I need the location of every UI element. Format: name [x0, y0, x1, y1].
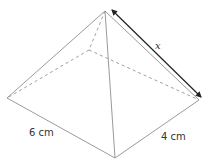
edge-apex-front [105, 11, 115, 158]
edge-apex-right [105, 11, 199, 100]
edge-base-left [7, 98, 115, 158]
edge-base-right [115, 100, 199, 158]
label-width: 4 cm [161, 131, 186, 142]
edge-apex-left [7, 11, 105, 98]
dimension-arrow-x [112, 10, 201, 97]
hidden-edge-back-right [89, 50, 199, 100]
label-x: x [155, 40, 161, 51]
hidden-edge-back-left [7, 50, 89, 98]
hidden-edge-apex-back [89, 11, 105, 50]
label-length: 6 cm [29, 127, 54, 138]
pyramid-diagram: x 6 cm 4 cm [0, 0, 208, 163]
